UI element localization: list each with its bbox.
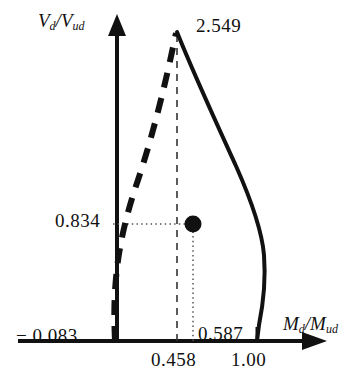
- x-axis-label: Md/Mud: [283, 314, 338, 333]
- x-peak-value-label: 0.458: [151, 350, 196, 369]
- x-negative-intercept-label: − 0.083: [16, 326, 78, 345]
- y-axis-label: Vd/Vud: [38, 11, 85, 30]
- x-axis-label-numerator: M: [283, 313, 299, 334]
- y-axis-label-numerator: V: [38, 10, 50, 31]
- point-x-value-label: 0.587: [198, 324, 243, 343]
- design-point-marker: [185, 216, 202, 233]
- y-axis-label-denominator: V: [61, 10, 73, 31]
- x-axis-label-denominator-sub: ud: [326, 322, 338, 336]
- x-axis-arrowhead: [302, 332, 327, 350]
- peak-value-label: 2.549: [196, 16, 241, 35]
- y-axis-label-numerator-sub: d: [50, 19, 56, 33]
- x-axis-label-denominator: M: [310, 313, 326, 334]
- ascending-branch-dashed: [114, 33, 176, 341]
- x-max-value-label: 1.00: [231, 350, 266, 369]
- y-axis-label-denominator-sub: ud: [73, 19, 85, 33]
- interaction-diagram-figure: Vd/Vud Md/Mud 2.549 0.834 − 0.083 0.587 …: [0, 0, 358, 379]
- x-axis-label-numerator-sub: d: [299, 322, 305, 336]
- point-y-value-label: 0.834: [55, 211, 100, 230]
- y-axis-arrowhead: [108, 14, 126, 36]
- descending-branch-solid: [177, 32, 265, 341]
